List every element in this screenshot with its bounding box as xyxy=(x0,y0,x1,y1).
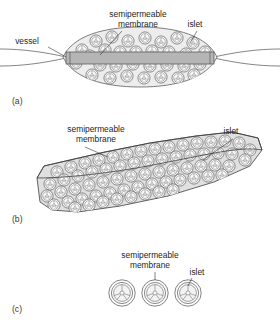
label-semipermeable-c-line2: membrane xyxy=(130,260,170,270)
label-vessel: vessel xyxy=(15,36,39,46)
microcapsule xyxy=(109,280,135,306)
label-semipermeable-a-line2: membrane xyxy=(118,19,158,29)
label-islet-c: islet xyxy=(190,267,206,277)
islet xyxy=(125,191,137,203)
microcapsule xyxy=(142,280,168,306)
islet xyxy=(97,176,109,188)
islet xyxy=(239,154,251,166)
label-islet-b: islet xyxy=(224,126,240,136)
islet xyxy=(128,157,140,169)
figure-canvas: vessel semipermeable membrane islet (a) xyxy=(0,0,280,326)
islet xyxy=(58,174,70,186)
islet xyxy=(104,72,116,84)
islet xyxy=(171,32,183,44)
panel-label-a: (a) xyxy=(12,96,23,106)
islet xyxy=(83,199,95,211)
microcapsule xyxy=(175,280,201,306)
panel-label-b: (b) xyxy=(12,214,23,224)
islet xyxy=(111,193,123,205)
islet xyxy=(44,178,56,190)
label-semipermeable-c-line1: semipermeable xyxy=(121,250,179,260)
islet xyxy=(202,170,214,182)
islet xyxy=(121,70,133,82)
islet xyxy=(90,35,102,47)
label-islet-a: islet xyxy=(188,19,204,29)
islet xyxy=(188,172,200,184)
vessel-tube xyxy=(66,52,214,64)
islet xyxy=(138,72,150,84)
label-semipermeable-b-line1: semipermeable xyxy=(67,124,125,134)
islet xyxy=(97,196,109,208)
islet xyxy=(191,137,203,149)
islet xyxy=(205,136,217,148)
islet xyxy=(139,32,151,44)
islet xyxy=(155,71,167,83)
islet xyxy=(153,186,165,198)
islet xyxy=(139,188,151,200)
islet xyxy=(86,166,98,178)
islet xyxy=(122,35,134,47)
islet xyxy=(219,135,231,147)
islet xyxy=(187,37,199,49)
islet xyxy=(83,179,95,191)
islet xyxy=(125,170,137,182)
islet xyxy=(111,173,123,185)
label-semipermeable-a-line1: semipermeable xyxy=(109,9,167,19)
islet xyxy=(233,137,245,149)
panel-label-c: (c) xyxy=(12,304,22,314)
islet xyxy=(155,36,167,48)
islet xyxy=(184,149,196,161)
label-semipermeable-b-line2: membrane xyxy=(76,134,116,144)
